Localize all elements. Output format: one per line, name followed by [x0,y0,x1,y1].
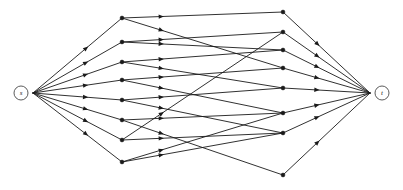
edge-arrowhead [158,105,164,109]
edge-arrowhead [158,131,164,135]
edge-line [283,32,370,93]
graph-node-r8[interactable] [281,173,285,177]
edge-arrowhead [158,27,164,31]
edge-line [283,93,370,175]
flow-network-diagram: st [0,0,403,190]
edge-arrowhead [159,14,164,18]
graph-node-r1[interactable] [281,10,285,14]
graph-node-l7[interactable] [120,138,124,142]
terminal-node-s[interactable]: s [14,86,28,100]
edge-arrowhead [158,85,164,89]
graph-node-l5[interactable] [120,98,124,102]
edge-line [33,62,122,93]
edge-line [33,93,122,100]
middle-edge [122,68,283,80]
graph-node-l1[interactable] [120,16,124,20]
sink-edge [283,93,370,175]
sink-fan-edge-group [283,12,370,175]
middle-edge [122,62,283,88]
graph-node-r2[interactable] [281,30,285,34]
graph-node-r7[interactable] [281,131,285,135]
graph-node-r4[interactable] [281,66,285,70]
middle-edge [122,12,283,19]
edge-arrowhead [159,95,164,99]
sink-edge [283,88,370,93]
edge-arrowhead [158,153,164,157]
edge-line [122,12,283,18]
middle-edge [122,80,283,113]
middle-edge [122,133,283,141]
edge-line [122,62,283,88]
edge-arrowhead [83,84,88,88]
graph-node-r3[interactable] [281,48,285,52]
graph-node-l8[interactable] [120,160,124,164]
sink-edge [283,32,370,93]
source-edge [33,93,122,140]
middle-edge [122,88,283,100]
edge-line [122,88,283,100]
edge-arrowhead [314,88,319,92]
source-edge [33,93,122,100]
edge-arrowhead [159,136,164,140]
edge-line [33,42,122,93]
terminal-node-t[interactable]: t [375,86,389,100]
graph-node-l2[interactable] [120,40,124,44]
source-edge [33,42,122,93]
edge-arrowhead [158,66,163,70]
layer-node-group [120,10,285,177]
edge-line [33,93,122,140]
edge-arrowhead [158,112,164,117]
sink-edge [283,93,370,113]
middle-edge [122,113,283,121]
edge-arrowhead [159,116,164,120]
source-edge [33,93,122,162]
edge-arrowhead [314,104,320,108]
source-edge [33,93,122,120]
middle-cross-edge-group [122,12,283,175]
graph-node-r5[interactable] [281,86,285,90]
source-edge [33,62,122,93]
graph-node-r6[interactable] [281,111,285,115]
edge-line [122,32,283,140]
terminal-label-s: s [20,89,23,97]
edge-arrowhead [314,53,320,58]
edge-arrowhead [83,106,89,110]
edge-line [33,93,122,162]
edge-line [283,93,370,133]
edge-line [122,113,283,120]
terminal-node-group: st [14,86,389,100]
graph-node-l4[interactable] [120,78,124,82]
edge-line [283,93,370,113]
edge-arrowhead [83,73,89,77]
edge-arrowhead [83,131,88,136]
graph-node-l6[interactable] [120,118,124,122]
edge-line [122,133,283,140]
graph-node-l3[interactable] [120,60,124,64]
edge-line [122,68,283,80]
edge-arrowhead [83,95,88,99]
middle-edge [122,32,283,140]
edge-arrowhead [159,75,164,79]
edge-line [33,93,122,120]
edge-arrowhead [159,38,164,42]
source-fan-edge-group [33,18,122,162]
edge-line [122,32,283,42]
middle-edge [122,32,283,42]
edge-arrowhead [314,75,320,79]
sink-edge [283,93,370,133]
edge-line [122,80,283,113]
edge-arrowhead [159,42,164,46]
edge-arrowhead [158,149,164,153]
graph-canvas: st [0,0,403,190]
edge-arrowhead [159,57,164,61]
edge-line [283,88,370,93]
